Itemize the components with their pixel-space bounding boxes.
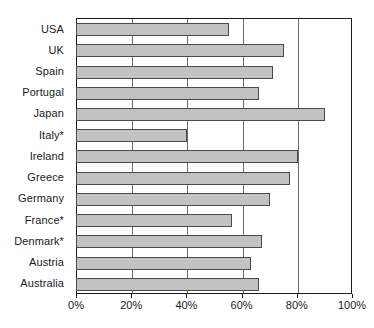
y-label-japan: Japan <box>0 103 70 124</box>
tick-mark-40 <box>186 294 187 298</box>
bar-france[interactable] <box>76 214 232 227</box>
bar-australia[interactable] <box>76 278 259 291</box>
bar-row <box>77 83 351 104</box>
bar-germany[interactable] <box>76 193 270 206</box>
bar-row <box>77 274 351 295</box>
x-label-60: 60% <box>231 299 253 311</box>
y-label-france: France* <box>0 209 70 230</box>
bar-usa[interactable] <box>76 23 229 36</box>
y-label-italy: Italy* <box>0 124 70 145</box>
y-label-germany: Germany <box>0 188 70 209</box>
bar-uk[interactable] <box>76 44 284 57</box>
bar-row <box>77 231 351 252</box>
x-label-20: 20% <box>120 299 142 311</box>
bar-row <box>77 252 351 273</box>
tick-mark-20 <box>131 294 132 298</box>
y-label-ireland: Ireland <box>0 145 70 166</box>
plot-area <box>76 18 352 294</box>
bar-row <box>77 210 351 231</box>
bar-rows <box>77 19 351 293</box>
y-axis-category-labels: USAUKSpainPortugalJapanItaly*IrelandGree… <box>0 18 70 294</box>
bar-row <box>77 168 351 189</box>
bar-denmark[interactable] <box>76 235 262 248</box>
bar-spain[interactable] <box>76 66 273 79</box>
y-label-portugal: Portugal <box>0 82 70 103</box>
y-label-uk: UK <box>0 39 70 60</box>
bar-row <box>77 146 351 167</box>
tick-mark-0 <box>76 294 77 298</box>
bar-ireland[interactable] <box>76 150 298 163</box>
x-label-100: 100% <box>338 299 366 311</box>
x-label-40: 40% <box>175 299 197 311</box>
bar-row <box>77 19 351 40</box>
tick-mark-60 <box>242 294 243 298</box>
y-label-greece: Greece <box>0 167 70 188</box>
bar-row <box>77 61 351 82</box>
tick-mark-100 <box>352 294 353 298</box>
x-axis-tick-labels: 0%20%40%60%80%100% <box>0 299 374 319</box>
horizontal-bar-chart: USAUKSpainPortugalJapanItaly*IrelandGree… <box>0 0 374 328</box>
y-label-spain: Spain <box>0 60 70 81</box>
bar-austria[interactable] <box>76 257 251 270</box>
y-label-usa: USA <box>0 18 70 39</box>
bar-greece[interactable] <box>76 172 290 185</box>
x-label-80: 80% <box>286 299 308 311</box>
bar-row <box>77 40 351 61</box>
bar-row <box>77 125 351 146</box>
bar-row <box>77 189 351 210</box>
y-label-denmark: Denmark* <box>0 230 70 251</box>
bar-italy[interactable] <box>76 129 187 142</box>
y-label-austria: Austria <box>0 251 70 272</box>
bar-japan[interactable] <box>76 108 325 121</box>
x-label-0: 0% <box>68 299 84 311</box>
bar-row <box>77 104 351 125</box>
tick-mark-80 <box>297 294 298 298</box>
y-label-australia: Australia <box>0 273 70 294</box>
bar-portugal[interactable] <box>76 87 259 100</box>
